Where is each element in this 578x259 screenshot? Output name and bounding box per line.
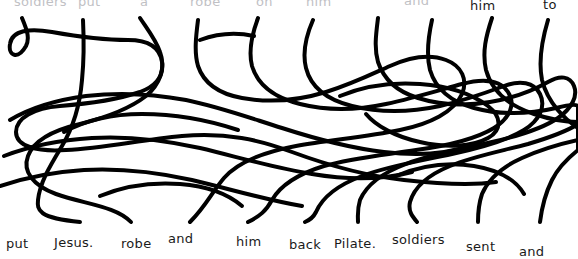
top-word-2: put	[78, 0, 101, 9]
line-puzzle-canvas: soldiersputarobeonhimandhimto putJesus.r…	[0, 0, 578, 259]
bottom-word-3: robe	[121, 236, 151, 251]
strand-6	[304, 20, 542, 222]
top-word-6: him	[306, 0, 331, 9]
top-word-1: soldiers	[14, 0, 67, 9]
top-word-9: to	[543, 0, 557, 12]
bottom-word-1: put	[6, 236, 29, 251]
strand-9	[478, 18, 578, 222]
strand-5	[248, 18, 512, 222]
top-word-4: robe	[190, 0, 220, 9]
top-word-3: a	[140, 0, 148, 9]
bottom-word-2: Jesus.	[54, 235, 94, 250]
bottom-word-10: and	[519, 244, 544, 259]
bottom-word-8: soldiers	[392, 232, 445, 247]
tangled-lines-graphic	[0, 0, 578, 259]
crossing-line-7	[200, 34, 254, 40]
bottom-word-5: him	[236, 234, 261, 249]
bottom-word-6: back	[289, 237, 321, 252]
bottom-word-4: and	[168, 231, 193, 246]
bottom-word-7: Pilate.	[334, 236, 376, 251]
top-word-7: and	[404, 0, 429, 8]
crossing-line-4	[64, 114, 238, 132]
top-word-8: him	[470, 0, 495, 13]
strand-2	[38, 20, 84, 222]
bottom-word-9: sent	[466, 239, 495, 254]
top-word-5: on	[256, 0, 273, 9]
